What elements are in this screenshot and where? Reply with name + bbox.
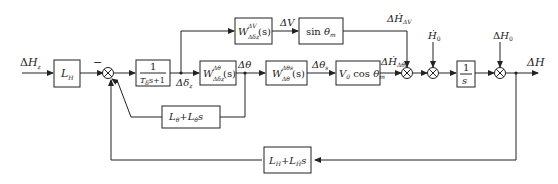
summing-junction-3 [428, 68, 439, 79]
svg-text:Tδs+1: Tδs+1 [140, 76, 165, 86]
label-minus-sign: − [93, 56, 102, 69]
svg-text:(s): (s) [292, 68, 305, 79]
summing-junction-2 [402, 68, 413, 79]
block-outer-feedback: LH+LḢs [264, 147, 311, 173]
label-dHdot-dthetas: ΔḢΔθs [380, 56, 408, 68]
label-dtheta-s: Δθs [311, 59, 328, 71]
svg-text:LH+LḢs: LH+LḢs [268, 155, 306, 167]
block-sin: sin θm [299, 18, 343, 44]
svg-text:V0 cos θm: V0 cos θm [339, 68, 385, 80]
label-input-dH0: ΔH0 [493, 30, 513, 42]
label-output-dH: ΔH [526, 56, 545, 69]
svg-text:Lθ+Lθ̇s: Lθ+Lθ̇s [168, 111, 203, 123]
svg-text:Δθ: Δθ [212, 64, 221, 71]
branch-point-dtheta [243, 71, 246, 74]
block-W-theta-s: W Δθs Δθ (s) [266, 61, 307, 85]
svg-text:(s): (s) [223, 68, 236, 79]
label-input-dHz: ΔHz [20, 56, 42, 70]
label-input-Hdot0: Ḣ0 [427, 30, 441, 42]
block-integrator: 1 s [457, 61, 475, 87]
block-LH: LH [54, 60, 80, 87]
svg-text:(s): (s) [258, 26, 271, 37]
block-W-theta: W Δθ Δδz (s) [200, 61, 236, 85]
svg-text:s: s [462, 75, 467, 86]
svg-text:1: 1 [463, 62, 469, 73]
branch-point-delta-z [179, 71, 182, 74]
label-dtheta: Δθ [237, 59, 251, 70]
svg-text:Δθ: Δθ [281, 75, 290, 82]
label-delta-z: Δδz [175, 77, 193, 89]
branch-point-dH [514, 71, 517, 74]
block-inner-feedback: Lθ+Lθ̇s [162, 106, 220, 128]
block-lag: 1 Tδs+1 [136, 60, 170, 86]
summing-junction-1 [103, 68, 114, 79]
block-V-cos: V0 cos θm [336, 61, 385, 85]
signal-lines [22, 31, 538, 160]
svg-text:1: 1 [150, 61, 156, 72]
svg-text:ΔV: ΔV [247, 22, 257, 29]
block-W-V: W ΔV Δδz (s) [235, 18, 272, 44]
label-dV: ΔV [279, 17, 296, 28]
label-dHdot-dV: ΔḢΔV [386, 13, 412, 25]
summing-junction-4 [495, 68, 506, 79]
block-diagram: LH 1 Tδs+1 W Δθ Δδz (s) W ΔV Δδz (s) sin… [0, 0, 558, 184]
